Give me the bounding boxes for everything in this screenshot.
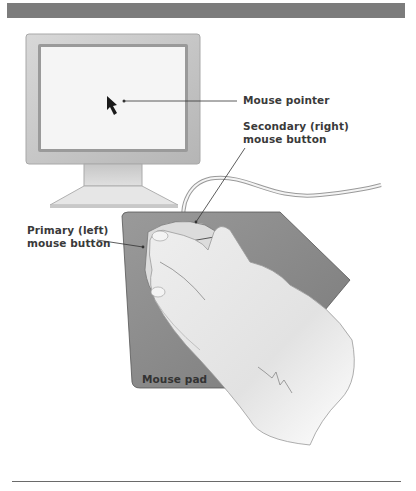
label-primary-button: Primary (left) mouse button [27,224,111,250]
label-secondary-line1: Secondary (right) [243,120,349,133]
label-mouse-pad: Mouse pad [142,373,207,386]
label-mouse-pointer: Mouse pointer [243,94,330,107]
label-primary-line1: Primary (left) [27,224,111,237]
label-primary-line2: mouse button [27,237,111,250]
monitor [26,34,200,208]
label-secondary-line2: mouse button [243,133,349,146]
footer-divider [12,481,401,482]
label-secondary-button: Secondary (right) mouse button [243,120,349,146]
